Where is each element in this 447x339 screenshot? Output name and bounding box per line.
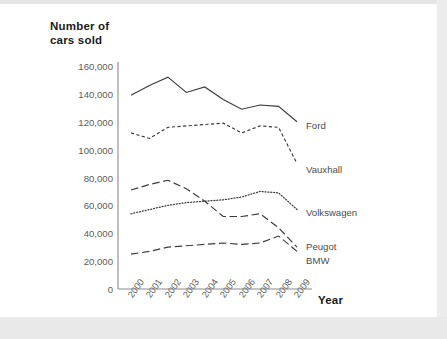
line-chart: Number of cars sold Year 160,000140,0001… [0,4,437,317]
series-label-ford: Ford [306,120,326,131]
right-border-band [437,0,447,317]
series-lines [131,77,297,254]
series-line-volkswagen [131,191,297,213]
series-label-peugot: Peugot [306,241,336,252]
series-label-vauxhall: Vauxhall [306,164,342,175]
series-line-peugot [131,180,297,247]
chart-card: Number of cars sold Year 160,000140,0001… [0,4,437,317]
bottom-border-band [0,317,447,339]
plot-svg [0,4,437,317]
series-line-ford [131,77,297,122]
series-label-volkswagen: Volkswagen [306,207,357,218]
series-line-vauxhall [131,123,297,163]
series-line-bmw [131,236,297,254]
page-background: Number of cars sold Year 160,000140,0001… [0,0,447,339]
series-label-bmw: BMW [306,255,329,266]
axis-lines [118,62,312,289]
